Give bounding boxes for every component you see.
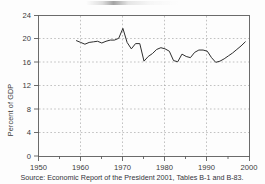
x-tick-label: 2000 <box>241 163 258 172</box>
y-tick-label: 24 <box>23 11 31 20</box>
x-tick-label: 1990 <box>198 163 215 172</box>
x-tick-label: 1950 <box>30 163 47 172</box>
y-tick-label: 20 <box>23 34 31 43</box>
gdp-line-chart: 24 20 16 12 8 4 0 Percent of GDP <box>0 0 265 184</box>
plot-border <box>39 16 250 157</box>
x-tick-label: 1970 <box>114 163 131 172</box>
y-tick-label: 0 <box>27 152 31 161</box>
y-tick-labels: 24 20 16 12 8 4 0 <box>23 11 31 161</box>
x-tick-label: 1980 <box>156 163 173 172</box>
y-tick-label: 16 <box>23 58 31 67</box>
source-note: Source: Economic Report of the President… <box>20 173 243 182</box>
data-series-line <box>76 28 245 62</box>
vertical-gridlines <box>81 16 207 156</box>
horizontal-gridlines <box>39 39 249 133</box>
x-tick-labels: 1950 1960 1970 1980 1990 2000 <box>30 163 257 172</box>
x-tick-label: 1960 <box>72 163 89 172</box>
y-tick-label: 12 <box>23 81 31 90</box>
y-tick-label: 4 <box>27 128 31 137</box>
figure-container: 24 20 16 12 8 4 0 Percent of GDP <box>0 0 265 184</box>
y-axis-title: Percent of GDP <box>6 84 15 136</box>
y-tick-label: 8 <box>27 105 31 114</box>
